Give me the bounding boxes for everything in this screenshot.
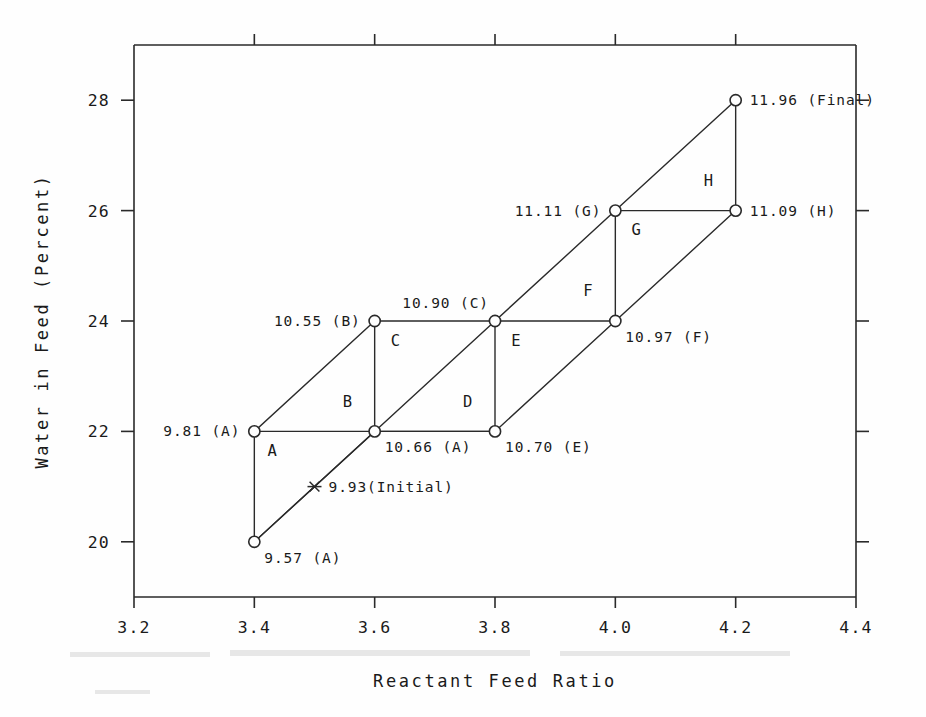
x-tick-label-1: 3.4 — [238, 618, 271, 637]
y-axis-title: Water in Feed (Percent) — [32, 173, 52, 468]
point-label-p_b: 10.55 (B) — [274, 313, 361, 329]
point-label-p_f: 10.97 (F) — [625, 329, 712, 345]
marker-p_e[interactable] — [489, 426, 500, 437]
region-label-r_a: A — [267, 442, 277, 460]
marker-p_f[interactable] — [610, 315, 621, 326]
point-label-p_initial: 9.93(Initial) — [329, 479, 454, 495]
point-label-p_h: 11.09 (H) — [750, 203, 837, 219]
evop-scatter-plot: 9.57 (A)9.93(Initial)9.81 (A)10.66 (A)10… — [0, 0, 926, 717]
x-tick-label-6: 4.4 — [839, 618, 872, 637]
marker-p_a2[interactable] — [369, 426, 380, 437]
seg_upper_left_diagonal — [254, 321, 374, 431]
region-label-r_f: F — [583, 282, 593, 300]
point-label-p_a2: 10.66 (A) — [385, 439, 472, 455]
marker-p_start[interactable] — [249, 536, 260, 547]
marker-p_a[interactable] — [249, 426, 260, 437]
scan-artifact-3 — [95, 690, 150, 694]
y-tick-label-1: 22 — [88, 422, 110, 441]
point-label-p_e: 10.70 (E) — [505, 439, 592, 455]
scan-artifact-1 — [230, 650, 530, 656]
point-label-p_a: 9.81 (A) — [163, 423, 240, 439]
x-tick-label-2: 3.6 — [358, 618, 391, 637]
scan-artifact-2 — [560, 651, 790, 656]
marker-p_c[interactable] — [489, 315, 500, 326]
region-label-r_c: C — [391, 332, 401, 350]
point-label-p_final: 11.96 (Final) — [750, 92, 875, 108]
marker-p_b[interactable] — [369, 315, 380, 326]
chart-canvas: 9.57 (A)9.93(Initial)9.81 (A)10.66 (A)10… — [0, 0, 926, 717]
y-tick-label-0: 20 — [88, 533, 110, 552]
region-label-r_d: D — [463, 393, 473, 411]
data-point-labels: 9.57 (A)9.93(Initial)9.81 (A)10.66 (A)10… — [163, 92, 875, 566]
marker-p_h[interactable] — [730, 205, 741, 216]
x-tick-label-4: 4.0 — [599, 618, 632, 637]
marker-p_g[interactable] — [610, 205, 621, 216]
point-label-p_g: 11.11 (G) — [515, 203, 602, 219]
x-tick-label-0: 3.2 — [117, 618, 150, 637]
region-label-r_b: B — [343, 393, 353, 411]
y-tick-label-3: 26 — [88, 202, 110, 221]
axis-tick-labels: 3.23.43.63.84.04.24.42022242628 — [88, 91, 873, 637]
axis-titles: Reactant Feed RatioWater in Feed (Percen… — [32, 173, 617, 691]
region-label-r_g: G — [631, 221, 641, 239]
y-tick-label-4: 28 — [88, 91, 110, 110]
y-tick-label-2: 24 — [88, 312, 110, 331]
point-label-p_c: 10.90 (C) — [402, 295, 489, 311]
marker-p_final[interactable] — [730, 95, 741, 106]
point-label-p_start: 9.57 (A) — [264, 550, 341, 566]
region-label-r_e: E — [511, 332, 521, 350]
scan-artifact-0 — [70, 652, 210, 657]
x-axis-title: Reactant Feed Ratio — [373, 671, 617, 691]
region-label-r_h: H — [704, 172, 714, 190]
x-tick-label-5: 4.2 — [719, 618, 752, 637]
x-tick-label-3: 3.8 — [478, 618, 511, 637]
